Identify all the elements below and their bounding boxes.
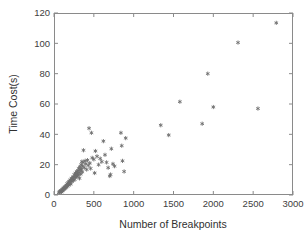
- y-tick-label: 20: [39, 159, 50, 170]
- x-tick-label: 1000: [123, 198, 144, 209]
- data-point: [82, 148, 86, 152]
- x-tick-label: 3000: [282, 198, 303, 209]
- data-point: [110, 147, 114, 151]
- data-point: [106, 166, 110, 170]
- data-point: [89, 166, 93, 170]
- x-tick-label: 2500: [243, 198, 264, 209]
- data-point: [105, 160, 109, 164]
- axis-box: [55, 14, 293, 195]
- data-markers-group: [57, 21, 278, 195]
- data-point: [87, 126, 91, 130]
- data-point: [121, 159, 125, 163]
- data-point: [178, 100, 182, 104]
- y-tick-label: 80: [39, 68, 50, 79]
- data-point: [200, 122, 204, 126]
- data-point: [274, 21, 278, 25]
- data-point: [120, 144, 124, 148]
- data-point: [122, 169, 126, 173]
- data-point: [119, 131, 123, 135]
- y-tick-label: 60: [39, 98, 50, 109]
- x-axis-title: Number of Breakpoints: [119, 218, 226, 230]
- data-point: [236, 40, 240, 44]
- x-tick-label: 500: [86, 198, 102, 209]
- y-tick-label: 40: [39, 129, 50, 140]
- data-point: [102, 139, 106, 143]
- y-tick-label: 120: [34, 7, 50, 18]
- data-point: [94, 149, 98, 153]
- data-point: [124, 136, 128, 140]
- x-tick-label: 1500: [163, 198, 184, 209]
- data-point: [90, 131, 94, 135]
- y-tick-label: 100: [34, 38, 50, 49]
- data-point: [93, 171, 97, 175]
- x-tick-label: 0: [51, 198, 56, 209]
- data-point: [167, 133, 171, 137]
- y-tick-label: 0: [45, 189, 50, 200]
- data-point: [159, 123, 163, 127]
- scatter-plot: 050010001500200025003000 020406080100120…: [0, 0, 308, 238]
- x-tick-labels: 050010001500200025003000: [51, 198, 303, 209]
- data-point: [103, 153, 107, 157]
- y-axis-title: Time Cost(s): [7, 74, 19, 134]
- data-point: [212, 105, 216, 109]
- x-tick-label: 2000: [203, 198, 224, 209]
- figure-container: 050010001500200025003000 020406080100120…: [0, 0, 308, 238]
- data-point: [206, 72, 210, 76]
- y-tick-labels: 020406080100120: [34, 7, 50, 200]
- data-point: [256, 106, 260, 110]
- data-point: [97, 163, 101, 167]
